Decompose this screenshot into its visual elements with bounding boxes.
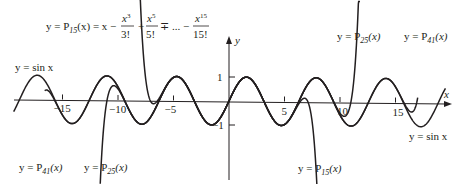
svg-text:x5: x5 (146, 12, 156, 24)
p25-label-bottom: y = P25(x) (84, 161, 128, 176)
p25-label-top: y = P25(x) (337, 30, 381, 45)
x-tick-label: 5 (282, 105, 288, 117)
p41-label-top: y = P41(x) (404, 30, 448, 45)
x-axis-arrow-icon (444, 101, 452, 107)
x-tick-label: −5 (165, 103, 177, 115)
svg-text:3!: 3! (121, 28, 130, 40)
svg-text:y = P15(x) = x −: y = P15(x) = x − (46, 20, 116, 35)
x-tick-label: 15 (393, 106, 405, 118)
svg-text:x3: x3 (121, 12, 131, 24)
y-axis-label: y (234, 34, 240, 46)
sin-label-top-left: y = sin x (15, 61, 54, 73)
y-ticks (229, 77, 235, 125)
x-axis (14, 100, 448, 104)
p41-label-bottom: y = P41(x) (19, 161, 63, 176)
y-axis-arrow-icon (226, 36, 232, 44)
svg-text:x15: x15 (194, 12, 207, 24)
svg-text:+: + (138, 20, 144, 32)
p15-formula-annotation: y = P15(x) = x − x3 3! + x5 5! ∓ ... − x… (46, 12, 209, 40)
p15-label-bottom: y = P15(x) (298, 162, 342, 177)
y-tick-label: 1 (217, 71, 223, 83)
x-tick-label: −10 (109, 103, 127, 115)
svg-text:5!: 5! (146, 28, 155, 40)
svg-text:15!: 15! (193, 28, 208, 40)
axes (14, 36, 452, 180)
taylor-polynomial-figure: −15−10−5510151−1 x y y = P15(x) = x − x3… (0, 0, 464, 184)
sin-label-bottom-right: y = sin x (409, 130, 448, 142)
svg-text:∓ ... −: ∓ ... − (160, 20, 189, 32)
